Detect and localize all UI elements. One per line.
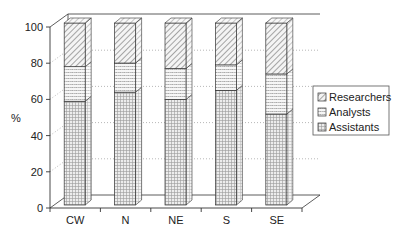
x-category-label: N xyxy=(122,214,130,226)
y-axis-title: % xyxy=(11,112,21,124)
bar-segment-assistants xyxy=(215,90,236,205)
bar-segment-side-assistants xyxy=(236,85,242,205)
bar-segment-side-analysts xyxy=(186,64,192,100)
legend-swatch-horizontal-lines-icon xyxy=(318,108,326,116)
bar-segment-side-assistants xyxy=(186,94,192,205)
bar-segment-researchers xyxy=(165,23,186,69)
x-category-label: NE xyxy=(168,214,183,226)
bar-segment-researchers xyxy=(266,23,287,74)
bar-segment-side-researchers xyxy=(287,18,293,74)
bar-se xyxy=(266,18,293,205)
legend-label: Assistants xyxy=(329,121,380,133)
legend-swatch-diagonal-hatch-icon xyxy=(318,93,326,101)
bar-segment-side-assistants xyxy=(287,109,293,205)
bar-segment-assistants xyxy=(266,114,287,205)
y-tick-label: 0 xyxy=(37,202,43,214)
legend-item-researchers: Researchers xyxy=(318,91,392,103)
bar-segment-side-analysts xyxy=(85,62,91,102)
bars xyxy=(64,18,293,205)
bar-segment-analysts xyxy=(165,69,186,100)
bar-segment-analysts xyxy=(64,67,85,102)
bar-segment-assistants xyxy=(115,92,136,205)
bar-segment-side-assistants xyxy=(136,87,142,205)
x-category-label: SE xyxy=(269,214,284,226)
bar-segment-researchers xyxy=(115,23,136,63)
bar-ne xyxy=(165,18,192,205)
y-tick-label: 20 xyxy=(31,166,43,178)
stacked-bar-chart: 020406080100 CWNNESSE % ResearchersAnaly… xyxy=(0,0,404,237)
y-tick-label: 100 xyxy=(25,21,43,33)
bar-segment-side-researchers xyxy=(85,18,91,67)
bar-segment-side-analysts xyxy=(287,69,293,114)
bar-segment-assistants xyxy=(165,99,186,205)
floor-right-edge xyxy=(302,195,320,208)
bar-segment-analysts xyxy=(266,74,287,114)
bar-cw xyxy=(64,18,91,205)
bar-segment-analysts xyxy=(115,63,136,92)
legend-item-analysts: Analysts xyxy=(318,106,371,118)
y-tick-label: 60 xyxy=(31,93,43,105)
x-category-label: CW xyxy=(66,214,85,226)
bar-segment-side-researchers xyxy=(236,18,242,65)
bar-segment-analysts xyxy=(215,65,236,90)
y-axis: 020406080100 xyxy=(25,21,50,214)
legend-label: Researchers xyxy=(329,91,392,103)
bar-segment-researchers xyxy=(64,23,85,67)
bar-segment-side-researchers xyxy=(136,18,142,63)
x-category-label: S xyxy=(223,214,230,226)
y-tick-label: 80 xyxy=(31,57,43,69)
bar-segment-side-researchers xyxy=(186,18,192,69)
bar-s xyxy=(215,18,242,205)
bar-n xyxy=(115,18,142,205)
legend-label: Analysts xyxy=(329,106,371,118)
x-axis: CWNNESSE xyxy=(50,208,302,226)
bar-segment-side-analysts xyxy=(136,58,142,92)
bar-segment-assistants xyxy=(64,101,85,205)
bar-segment-side-assistants xyxy=(85,96,91,205)
legend: ResearchersAnalystsAssistants xyxy=(313,86,392,135)
legend-swatch-grid-icon xyxy=(318,123,326,131)
bar-segment-researchers xyxy=(215,23,236,65)
y-tick-label: 40 xyxy=(31,130,43,142)
